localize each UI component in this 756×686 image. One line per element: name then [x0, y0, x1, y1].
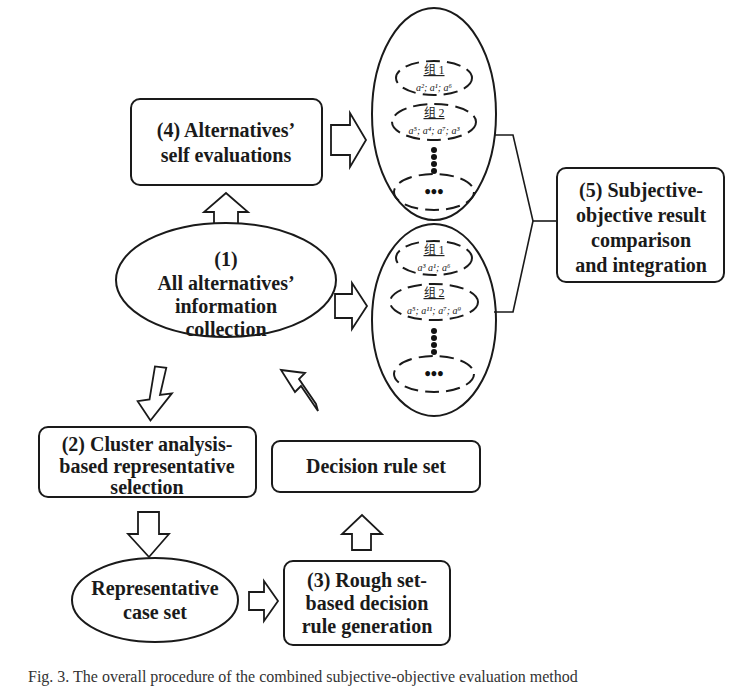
- step4-line2: self evaluations: [161, 144, 292, 166]
- more-groups-ellipsis: •••: [425, 182, 444, 202]
- step3-rough-set-box: (3) Rough set- based decision rule gener…: [284, 561, 450, 645]
- step5-line4: and integration: [575, 254, 707, 277]
- group-2-label: 组 2: [424, 106, 445, 120]
- step2-line2: based representative: [59, 455, 234, 478]
- step3-line3: rule generation: [302, 615, 433, 638]
- step5-line2: objective result: [576, 204, 706, 227]
- decision-rule-set-box: Decision rule set: [272, 441, 480, 492]
- group-2-members: a⁵; a⁴; a⁷; a³: [409, 125, 461, 136]
- arrow-right-icon: [335, 283, 367, 329]
- step1-line1: (1): [214, 248, 237, 271]
- group-1-label: 组 1: [424, 63, 445, 77]
- group-1-members: a³ a¹; a⁶: [418, 262, 451, 273]
- step1-information-collection-ellipse: (1) All alternatives’ information collec…: [116, 223, 336, 340]
- objective-cluster-panel: 组 1 a³ a¹; a⁶ 组 2 a⁵; a¹¹; a⁷; a⁹ •••: [372, 224, 496, 416]
- step5-line1: (5) Subjective-: [579, 179, 703, 202]
- step2-cluster-analysis-box: (2) Cluster analysis- based representati…: [39, 427, 256, 498]
- step5-line3: comparison: [591, 229, 691, 252]
- arrow-right-icon: [331, 113, 366, 167]
- figure-caption: Fig. 3. The overall procedure of the com…: [28, 668, 748, 686]
- subjective-cluster-panel: 组 1 a²; a¹; a⁶ 组 2 a⁵; a⁴; a⁷; a³ •••: [372, 8, 496, 220]
- group-1-members: a²; a¹; a⁶: [416, 82, 453, 93]
- arrow-right-icon: [249, 581, 278, 621]
- step4-line1: (4) Alternatives’: [157, 119, 295, 142]
- decision-rule-set-label: Decision rule set: [306, 455, 446, 477]
- representative-line1: Representative: [91, 577, 218, 600]
- step2-line1: (2) Cluster analysis-: [62, 433, 233, 456]
- step4-self-evaluation-box: (4) Alternatives’ self evaluations: [131, 99, 322, 185]
- arrow-down-icon: [128, 512, 169, 557]
- step2-line3: selection: [110, 476, 183, 498]
- step3-line1: (3) Rough set-: [307, 569, 427, 592]
- arrow-up-icon: [342, 515, 382, 550]
- group-2-label: 组 2: [424, 286, 445, 300]
- more-groups-ellipsis: •••: [425, 364, 444, 384]
- arrow-down-left-icon: [133, 365, 175, 422]
- representative-line2: case set: [123, 601, 187, 623]
- representative-case-set-ellipse: Representative case set: [72, 558, 238, 642]
- step1-line2: All alternatives’: [157, 272, 294, 294]
- group-1-label: 组 1: [424, 243, 445, 257]
- step1-line3: information: [175, 295, 277, 317]
- step3-line2: based decision: [306, 592, 429, 614]
- arrow-up-left-icon: [281, 370, 318, 411]
- group-2-members: a⁵; a¹¹; a⁷; a⁹: [407, 305, 461, 316]
- bracket-connector: [494, 135, 533, 312]
- step5-result-integration-box: (5) Subjective- objective result compari…: [557, 168, 724, 282]
- step1-line4: collection: [185, 318, 266, 340]
